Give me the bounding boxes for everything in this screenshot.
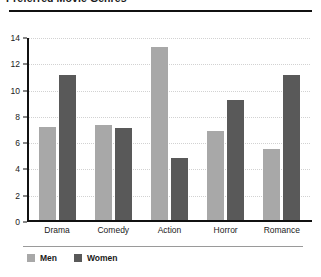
bar-action-women[interactable]: [171, 158, 188, 220]
x-axis-tick-label-drama: Drama: [39, 225, 76, 235]
bar-drama-women[interactable]: [59, 75, 76, 220]
legend-item-men[interactable]: Men: [27, 253, 57, 263]
bar-group-romance: [263, 36, 300, 220]
bar-comedy-men[interactable]: [95, 125, 112, 220]
bar-horror-women[interactable]: [227, 100, 244, 220]
bar-group-action: [151, 36, 188, 220]
title-divider: [9, 10, 312, 12]
y-axis-tick-label: 10: [11, 86, 20, 96]
legend-item-women[interactable]: Women: [74, 253, 118, 263]
bar-action-men[interactable]: [151, 47, 168, 220]
y-axis-tick-label: 14: [11, 33, 20, 43]
y-axis-tick-label: 2: [15, 191, 20, 201]
plot-canvas: [27, 16, 312, 238]
bar-romance-women[interactable]: [283, 75, 300, 220]
y-axis-tick-label: 8: [15, 112, 20, 122]
legend-label: Men: [40, 253, 57, 263]
legend-label: Women: [87, 253, 118, 263]
x-axis-tick-label-comedy: Comedy: [95, 225, 132, 235]
y-axis-tick-label: 4: [15, 164, 20, 174]
bar-comedy-women[interactable]: [115, 128, 132, 220]
x-axis-tick-label-action: Action: [151, 225, 188, 235]
bar-series-container: [29, 36, 310, 220]
bar-group-comedy: [95, 36, 132, 220]
bar-romance-men[interactable]: [263, 149, 280, 220]
bar-drama-men[interactable]: [39, 127, 56, 220]
x-axis: DramaComedyActionHorrorRomance: [29, 222, 310, 238]
x-axis-tick-label-romance: Romance: [263, 225, 300, 235]
bar-group-drama: [39, 36, 76, 220]
x-axis-tick-label-horror: Horror: [207, 225, 244, 235]
y-axis-tick-label: 0: [15, 217, 20, 227]
bar-horror-men[interactable]: [207, 131, 224, 220]
y-axis: 02468101214: [0, 16, 27, 238]
bar-group-horror: [207, 36, 244, 220]
page-title: Preferred Movie Genres: [6, 0, 127, 4]
chart-plot-area: 02468101214 DramaComedyActionHorrorRoman…: [0, 16, 321, 238]
legend-swatch-icon: [74, 254, 82, 262]
y-axis-tick-label: 12: [11, 59, 20, 69]
chart-legend: MenWomen: [27, 253, 118, 263]
legend-divider: [23, 246, 303, 247]
y-axis-tick-label: 6: [15, 138, 20, 148]
legend-swatch-icon: [27, 254, 35, 262]
